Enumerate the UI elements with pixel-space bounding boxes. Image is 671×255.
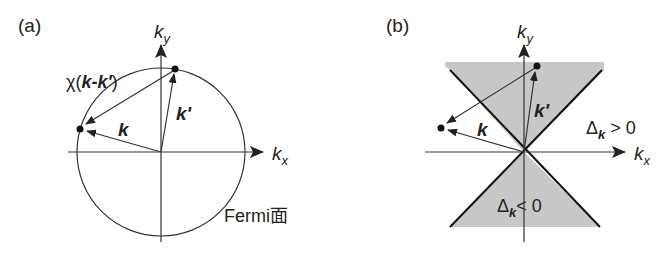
panel-b-label: (b) [386,15,409,36]
figure: (a) ky kx k k' χ(k-k') Fermi面 (b) [0,0,671,255]
point-k [77,126,84,133]
kx-label: kx [272,143,289,168]
ky-label: ky [154,21,172,46]
panel-a-label: (a) [18,15,41,36]
vector-k-prime-label: k' [176,103,193,124]
ky-label-b: ky [517,21,535,46]
vector-k-label: k [118,119,130,140]
vector-k-label-b: k [477,119,489,140]
delta-positive-label: Δk > 0 [586,118,636,142]
fermi-surface-label: Fermi面 [224,206,288,226]
panel-a: (a) ky kx k k' χ(k-k') Fermi面 [18,15,289,242]
kx-label-b: kx [634,143,651,168]
vector-k-prime [161,74,174,152]
vector-k-prime-label-b: k' [534,100,551,121]
point-k-prime-b [534,63,541,70]
chi-label: χ(k-k') [66,72,118,92]
point-k-prime [172,66,179,73]
point-k-b [438,125,445,132]
panel-b: (b) ky kx k k' Δk > 0 Δk< 0 [386,15,651,242]
